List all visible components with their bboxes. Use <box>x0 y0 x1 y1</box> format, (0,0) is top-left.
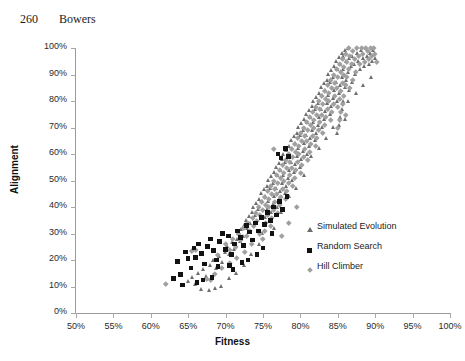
chart-legend: Simulated EvolutionRandom SearchHill Cli… <box>307 220 457 280</box>
data-point <box>369 75 373 79</box>
data-point <box>208 263 212 267</box>
data-point <box>251 205 255 209</box>
x-tick-mark <box>263 313 264 318</box>
data-point <box>272 146 277 151</box>
data-point <box>189 266 194 271</box>
x-tick-label: 100% <box>433 321 465 331</box>
data-point <box>220 260 224 264</box>
data-point <box>226 234 231 239</box>
data-point <box>341 93 346 98</box>
data-point <box>196 271 200 275</box>
data-point <box>247 230 252 235</box>
data-point <box>227 276 231 280</box>
data-point <box>299 162 304 167</box>
data-point <box>305 128 310 133</box>
x-tick-label: 95% <box>396 321 430 331</box>
y-tick-label: 100% <box>44 41 67 51</box>
data-point <box>317 106 322 111</box>
data-point <box>207 288 211 292</box>
data-point <box>255 252 260 257</box>
data-point <box>178 272 183 277</box>
y-tick-label: 80% <box>49 94 67 104</box>
data-point <box>361 83 365 87</box>
data-point <box>201 278 206 283</box>
data-point <box>281 170 286 175</box>
y-tick-label: 20% <box>49 253 67 263</box>
legend-marker-square-icon <box>307 248 312 253</box>
data-point <box>195 280 200 285</box>
page-header: 260 Bowers <box>0 0 465 34</box>
data-point <box>320 130 325 135</box>
x-tick-mark <box>151 313 152 318</box>
data-point <box>335 75 340 80</box>
data-point <box>229 252 234 257</box>
data-point <box>354 91 358 95</box>
data-point <box>235 229 240 234</box>
data-point <box>232 242 237 247</box>
page-author: Bowers <box>59 12 96 27</box>
x-tick-label: 90% <box>358 321 392 331</box>
data-point <box>253 221 258 226</box>
data-point <box>240 260 245 265</box>
data-point <box>244 223 249 228</box>
data-point <box>190 275 194 279</box>
data-point <box>238 235 243 240</box>
y-tick-label: 70% <box>49 121 67 131</box>
legend-label: Hill Climber <box>317 261 363 271</box>
data-point <box>275 181 280 186</box>
data-point <box>163 281 168 286</box>
legend-marker-triangle-icon <box>307 227 313 232</box>
data-point <box>319 85 323 89</box>
data-point <box>337 117 342 122</box>
legend-item[interactable]: Random Search <box>307 240 457 260</box>
data-point <box>279 234 284 239</box>
data-point <box>217 239 222 244</box>
data-point <box>343 112 348 117</box>
data-point <box>175 259 180 264</box>
data-point <box>326 72 330 76</box>
x-tick-label: 65% <box>171 321 205 331</box>
data-point <box>287 220 292 225</box>
x-tick-mark <box>413 313 414 318</box>
y-tick-label: 40% <box>49 200 67 210</box>
data-point <box>213 286 217 290</box>
data-point <box>234 255 239 260</box>
y-axis-label: Alignment <box>9 130 20 210</box>
data-point <box>294 186 298 190</box>
data-point <box>268 218 273 223</box>
data-point <box>210 275 215 280</box>
legend-item[interactable]: Hill Climber <box>307 260 457 280</box>
data-point <box>171 276 176 281</box>
x-tick-label: 85% <box>321 321 355 331</box>
data-point <box>219 284 223 288</box>
data-point <box>201 267 205 271</box>
data-point <box>205 244 210 249</box>
data-point <box>220 231 225 236</box>
y-tick-label: 90% <box>49 68 67 78</box>
x-tick-label: 75% <box>246 321 280 331</box>
x-tick-mark <box>188 313 189 318</box>
data-point <box>223 247 228 252</box>
data-point <box>199 251 204 256</box>
data-point <box>261 246 266 251</box>
legend-item[interactable]: Simulated Evolution <box>307 220 457 240</box>
x-axis-label: Fitness <box>0 336 465 347</box>
data-point <box>311 117 316 122</box>
legend-label: Random Search <box>317 241 382 251</box>
y-tick-label: 0% <box>54 306 67 316</box>
data-point <box>241 243 246 248</box>
x-tick-mark <box>300 313 301 318</box>
data-point <box>180 283 185 288</box>
data-point <box>324 136 328 140</box>
data-point <box>231 267 236 272</box>
data-point <box>186 256 191 261</box>
data-point <box>250 238 255 243</box>
data-point <box>307 149 312 154</box>
x-tick-mark <box>338 313 339 318</box>
data-point <box>374 59 379 64</box>
scatter-chart-figure: 0%10%20%30%40%50%60%70%80%90%100% 50%55%… <box>0 34 465 361</box>
data-point <box>285 194 290 199</box>
x-tick-label: 70% <box>209 321 243 331</box>
data-point <box>186 279 190 283</box>
data-point <box>262 222 267 227</box>
